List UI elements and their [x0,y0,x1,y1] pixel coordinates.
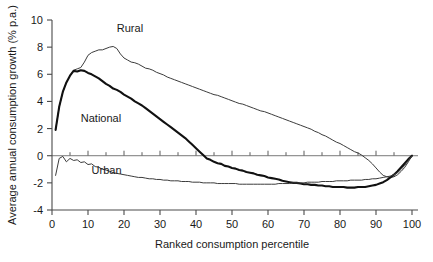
y-tick-label: 4 [37,95,43,107]
y-axis-title: Average annual consumption growth (% p.a… [6,5,18,225]
x-axis-tick-marks [52,210,412,215]
x-tick-label: 100 [403,218,421,230]
x-tick-label: 20 [118,218,130,230]
x-tick-label: 50 [226,218,238,230]
y-tick-label: 10 [31,14,43,26]
y-tick-label: 6 [37,68,43,80]
y-axis-tick-marks [47,20,52,210]
chart-container: 0102030405060708090100 -4-20246810 Rural… [0,0,433,262]
series-label-rural: Rural [117,22,143,34]
y-tick-label: 8 [37,41,43,53]
y-tick-label: 2 [37,123,43,135]
series-label-urban: Urban [92,164,122,176]
x-tick-label: 90 [370,218,382,230]
y-tick-label: -2 [33,177,43,189]
series-annotations: RuralNationalUrban [81,22,143,176]
x-axis-tick-labels: 0102030405060708090100 [49,218,421,230]
x-axis-title: Ranked consumption percentile [155,238,309,250]
y-tick-label: 0 [37,150,43,162]
x-tick-label: 40 [190,218,202,230]
series-label-national: National [81,112,121,124]
y-axis-tick-labels: -4-20246810 [31,14,43,216]
x-tick-label: 80 [334,218,346,230]
x-tick-label: 0 [49,218,55,230]
x-tick-label: 60 [262,218,274,230]
x-tick-label: 70 [298,218,310,230]
minor-tick-marks [70,151,394,156]
chart-plot: 0102030405060708090100 -4-20246810 Rural… [0,0,433,262]
x-tick-label: 10 [82,218,94,230]
x-tick-label: 30 [154,218,166,230]
y-tick-label: -4 [33,204,43,216]
